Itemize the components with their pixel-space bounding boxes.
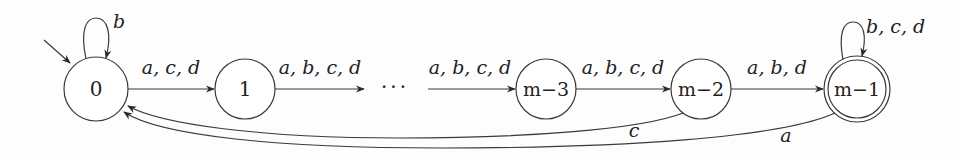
label-m-2-m-1: a, b, d <box>747 56 807 78</box>
state-m-3: m−3 <box>516 59 576 119</box>
label-0-1: a, c, d <box>142 56 200 78</box>
initial-arrow <box>44 40 70 63</box>
diagram-svg: b 0 1 m−3 m−2 m−1 a, c, d a, b, c, d ··· <box>0 0 959 160</box>
state-m-1-label: m−1 <box>834 78 880 100</box>
self-loop-m-1 <box>841 22 864 60</box>
state-0-label: 0 <box>90 77 103 101</box>
label-1-dots: a, b, c, d <box>279 56 362 78</box>
label-m-3-m-2: a, b, c, d <box>582 56 665 78</box>
state-m-3-label: m−3 <box>523 78 569 100</box>
edge-m-2-0 <box>128 106 683 138</box>
label-m-2-0: c <box>629 119 640 141</box>
label-loop-m-1: b, c, d <box>866 15 925 37</box>
self-loop-0 <box>84 18 109 59</box>
state-1-label: 1 <box>239 77 252 101</box>
state-m-1-accepting: m−1 <box>824 56 890 122</box>
label-loop-0: b <box>113 10 125 32</box>
state-1: 1 <box>215 59 275 119</box>
automaton-diagram: b 0 1 m−3 m−2 m−1 a, c, d a, b, c, d ··· <box>0 0 959 160</box>
state-m-2: m−2 <box>671 59 731 119</box>
state-0: 0 <box>64 57 128 121</box>
label-m-1-0: a <box>780 124 791 146</box>
ellipsis: ··· <box>381 75 409 99</box>
state-m-2-label: m−2 <box>678 78 724 100</box>
label-dots-m-3: a, b, c, d <box>429 56 512 78</box>
